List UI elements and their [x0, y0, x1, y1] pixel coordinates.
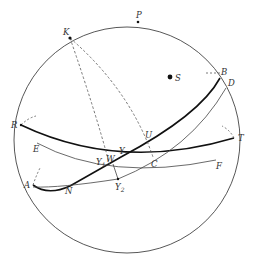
label-D: D	[227, 78, 235, 88]
label-U: U	[145, 130, 153, 140]
great-circle-ND	[33, 88, 226, 187]
label-aries2-sub: 2	[120, 186, 125, 193]
point-P	[137, 21, 140, 24]
label-R: R	[10, 120, 18, 130]
label-E: E	[32, 144, 40, 154]
label-P: P	[135, 10, 142, 20]
celestial-sphere-diagram: K P S B D R T E F A N U C W Υ Υ1 Υ2	[0, 0, 254, 254]
sphere-outline	[14, 27, 240, 253]
label-aries1: Υ1	[96, 157, 105, 168]
label-aries1-sub: 1	[102, 161, 106, 168]
label-B: B	[220, 67, 227, 77]
label-F: F	[215, 161, 223, 171]
point-Y2	[117, 178, 119, 180]
label-S: S	[175, 73, 181, 83]
great-circle-EF	[37, 143, 216, 168]
label-W: W	[106, 154, 116, 164]
great-circle-AB	[33, 78, 220, 191]
label-T: T	[238, 133, 245, 143]
label-N: N	[64, 186, 73, 196]
great-circle-RT	[21, 125, 234, 152]
great-circle-AB-back-left	[33, 168, 40, 185]
great-circle-RT-back-right	[222, 126, 234, 138]
dashed-K-C	[70, 38, 153, 157]
great-circle-RT-back	[21, 116, 36, 125]
label-aries2: Υ2	[115, 182, 125, 193]
label-C: C	[151, 159, 158, 169]
point-S	[168, 75, 173, 80]
point-R	[20, 124, 22, 126]
label-K: K	[62, 27, 70, 37]
label-A: A	[23, 180, 30, 190]
